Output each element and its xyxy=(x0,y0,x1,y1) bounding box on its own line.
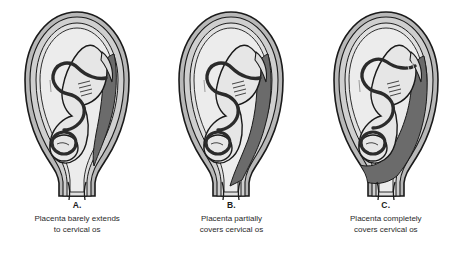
uterus-illustration-b xyxy=(156,6,306,202)
panel-c: C. Placenta completely covers cervical o… xyxy=(309,0,463,259)
caption-line-1-c: Placenta completely xyxy=(316,214,456,225)
placenta-previa-figure: A. Placenta barely extends to cervical o… xyxy=(0,0,463,259)
panel-letter-b: B. xyxy=(227,200,236,211)
panel-b: B. Placenta partially covers cervical os xyxy=(154,0,308,259)
caption-line-1-b: Placenta partially xyxy=(161,214,301,225)
caption-line-2-b: covers cervical os xyxy=(161,225,301,236)
panel-caption-a: Placenta barely extends to cervical os xyxy=(7,214,147,235)
panel-letter-c: C. xyxy=(381,200,390,211)
panel-row: A. Placenta barely extends to cervical o… xyxy=(0,0,463,259)
caption-line-2-c: covers cervical os xyxy=(316,225,456,236)
panel-a: A. Placenta barely extends to cervical o… xyxy=(0,0,154,259)
caption-line-2-a: to cervical os xyxy=(7,225,147,236)
uterus-illustration-c xyxy=(311,6,461,202)
uterus-illustration-a xyxy=(2,6,152,202)
panel-caption-c: Placenta completely covers cervical os xyxy=(316,214,456,235)
caption-line-1-a: Placenta barely extends xyxy=(7,214,147,225)
panel-caption-b: Placenta partially covers cervical os xyxy=(161,214,301,235)
panel-letter-a: A. xyxy=(73,200,82,211)
